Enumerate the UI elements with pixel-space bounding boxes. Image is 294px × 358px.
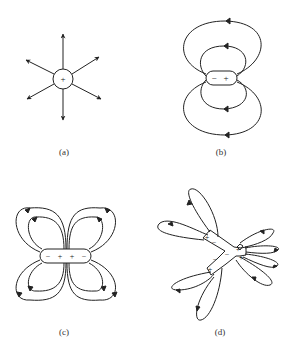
charge-sign: − (82, 252, 87, 261)
panel-d-multipole (158, 189, 279, 320)
charge-sign: + (239, 253, 244, 262)
panel-label-b: (b) (216, 147, 227, 157)
outer-top-field-line (184, 21, 262, 74)
panel-label-a: (a) (59, 147, 69, 157)
field-arrow-lower-left (27, 84, 54, 99)
charge-sign: − (211, 73, 216, 83)
charge-sign: − (225, 250, 230, 259)
field-arrow-upper-left (26, 60, 54, 74)
panel-c-quadrupole (16, 208, 117, 301)
charge-sign: − (212, 238, 217, 247)
panel-label-d: (d) (215, 327, 226, 337)
field-arrow-lower-right (72, 84, 101, 99)
charge-sign: − (213, 255, 218, 264)
charge-sign: + (60, 74, 65, 84)
panel-label-c: (c) (59, 327, 69, 337)
field-arrow-upper-right (72, 57, 99, 74)
charge-sign: − (46, 252, 51, 261)
field-lines-figure: + − + − + + − (0, 0, 294, 358)
charge-sign: + (58, 252, 63, 261)
charge-sign: + (223, 73, 228, 83)
figure-canvas: + − + − + + − (0, 0, 294, 358)
charge-sign: + (70, 252, 75, 261)
charge-sign: + (208, 265, 213, 274)
panel-b-dipole (184, 18, 262, 138)
charge-sign: + (205, 233, 210, 242)
